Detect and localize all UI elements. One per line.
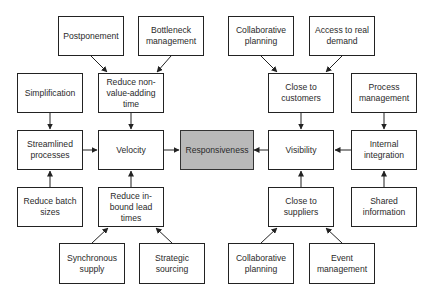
node-velocity: Velocity bbox=[98, 130, 164, 170]
node-label: Strategic sourcing bbox=[143, 253, 201, 275]
node-label: Simplification bbox=[25, 88, 76, 99]
node-visibility: Visibility bbox=[268, 130, 334, 170]
node-label: Event management bbox=[313, 253, 371, 275]
node-label: Responsiveness bbox=[185, 145, 248, 156]
node-collaborative-planning-bottom: Collaborative planning bbox=[228, 243, 294, 284]
node-collaborative-planning-top: Collaborative planning bbox=[228, 16, 294, 56]
node-access-to-real-demand: Access to real demand bbox=[309, 16, 375, 56]
node-close-to-suppliers: Close to suppliers bbox=[268, 187, 334, 227]
node-reduce-in-bound-lead-times: Reduce in-bound lead times bbox=[98, 187, 164, 227]
node-event-management: Event management bbox=[309, 243, 375, 284]
node-process-management: Process management bbox=[351, 73, 417, 113]
node-streamlined-processes: Streamlined processes bbox=[17, 130, 83, 170]
node-postponement: Postponement bbox=[58, 16, 124, 56]
node-label: Collaborative planning bbox=[232, 25, 290, 47]
node-label: Streamlined processes bbox=[21, 139, 79, 161]
responsiveness-diagram: Postponement Bottleneck management Colla… bbox=[0, 0, 428, 295]
node-label: Internal integration bbox=[355, 139, 413, 161]
node-shared-information: Shared information bbox=[351, 187, 417, 227]
node-reduce-batch-sizes: Reduce batch sizes bbox=[17, 187, 83, 227]
node-responsiveness: Responsiveness bbox=[180, 130, 254, 170]
node-label: Shared information bbox=[355, 196, 413, 218]
node-label: Reduce in-bound lead times bbox=[102, 191, 160, 224]
node-synchronous-supply: Synchronous supply bbox=[59, 243, 125, 284]
node-reduce-non-value-adding-time: Reduce non-value-adding time bbox=[98, 73, 164, 113]
node-label: Bottleneck management bbox=[142, 25, 200, 47]
node-strategic-sourcing: Strategic sourcing bbox=[139, 243, 205, 284]
node-label: Collaborative planning bbox=[232, 253, 290, 275]
node-label: Close to customers bbox=[272, 82, 330, 104]
node-label: Postponement bbox=[63, 31, 118, 42]
node-label: Reduce non-value-adding time bbox=[102, 77, 160, 110]
node-internal-integration: Internal integration bbox=[351, 130, 417, 170]
node-label: Close to suppliers bbox=[272, 196, 330, 218]
node-label: Access to real demand bbox=[313, 25, 371, 47]
node-label: Synchronous supply bbox=[63, 253, 121, 275]
node-label: Velocity bbox=[116, 145, 146, 156]
node-label: Reduce batch sizes bbox=[21, 196, 79, 218]
node-simplification: Simplification bbox=[17, 73, 83, 113]
node-label: Process management bbox=[355, 82, 413, 104]
node-label: Visibility bbox=[286, 145, 317, 156]
node-bottleneck-management: Bottleneck management bbox=[138, 16, 204, 56]
node-close-to-customers: Close to customers bbox=[268, 73, 334, 113]
